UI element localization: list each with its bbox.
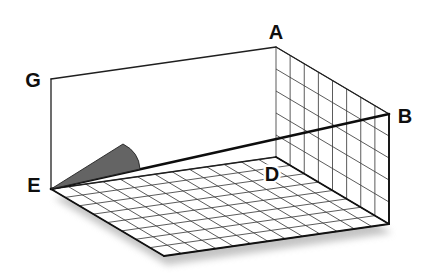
vertex-label-D: D (265, 163, 279, 185)
vertex-label-B: B (398, 105, 412, 127)
vertex-label-E: E (27, 174, 40, 196)
room-figure-svg: AGBED (0, 0, 425, 275)
vertex-label-G: G (25, 69, 41, 91)
vertex-label-A: A (269, 21, 283, 43)
diagram-canvas: AGBED (0, 0, 425, 275)
